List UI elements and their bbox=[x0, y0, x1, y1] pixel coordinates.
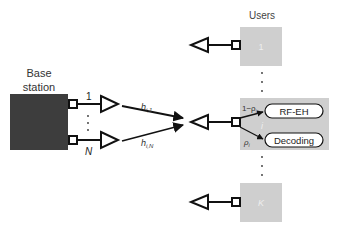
antenna-triangle-icon bbox=[101, 132, 118, 148]
antenna-port-icon bbox=[232, 118, 240, 126]
antenna-triangle-icon bbox=[191, 38, 208, 52]
rf-eh-label: RF-EH bbox=[279, 106, 308, 117]
split-ratio-upper: 1−ρi bbox=[242, 104, 257, 114]
base-station-label-line1: Base bbox=[26, 67, 51, 79]
antenna-port-icon bbox=[69, 100, 77, 108]
antenna-label-1: 1 bbox=[86, 91, 92, 102]
channel-arrow-1 bbox=[122, 106, 183, 118]
channel-arrow-n bbox=[122, 125, 183, 141]
user-k: K bbox=[191, 183, 282, 222]
users-ellipsis-top bbox=[261, 72, 263, 92]
users-ellipsis-bottom bbox=[261, 156, 263, 176]
antenna-port-icon bbox=[69, 136, 77, 144]
decoding-label: Decoding bbox=[274, 135, 314, 146]
bs-antenna-1: 1 bbox=[69, 91, 118, 112]
base-station-label-line2: station bbox=[23, 81, 55, 93]
user-label: 1 bbox=[258, 42, 263, 52]
base-station-box bbox=[10, 94, 68, 150]
user-1: 1 bbox=[191, 27, 282, 66]
user-label: K bbox=[258, 198, 265, 208]
bs-antenna-n: N bbox=[69, 132, 118, 157]
base-station: Base station bbox=[10, 67, 68, 150]
antenna-triangle-icon bbox=[191, 115, 208, 129]
user-i: i 1−ρi ρi RF-EH Decoding bbox=[191, 98, 329, 150]
bs-antenna-ellipsis bbox=[87, 115, 89, 131]
antenna-triangle-icon bbox=[101, 96, 118, 112]
channel-arrows: hi,1 hi,N bbox=[122, 102, 183, 149]
channel-label-1: hi,1 bbox=[141, 102, 152, 113]
antenna-port-icon bbox=[232, 41, 240, 49]
diagram-canvas: Base station 1 N hi,1 hi,N Users 1 bbox=[0, 0, 337, 233]
users-header: Users bbox=[249, 10, 275, 21]
antenna-port-icon bbox=[232, 198, 240, 206]
antenna-triangle-icon bbox=[191, 195, 208, 209]
antenna-label-n: N bbox=[85, 146, 93, 157]
channel-label-n: hi,N bbox=[141, 138, 154, 149]
